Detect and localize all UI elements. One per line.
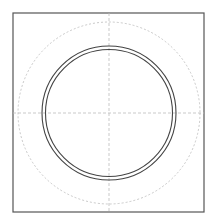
circle-ring-diagram <box>0 0 214 219</box>
